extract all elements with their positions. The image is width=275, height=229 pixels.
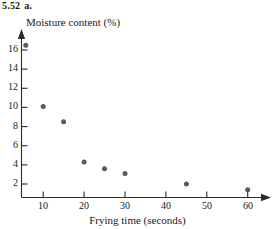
data-point-group <box>23 43 250 193</box>
x-tick-label: 50 <box>197 200 217 211</box>
y-tick-label: 6 <box>0 139 18 150</box>
x-tick-label: 30 <box>115 200 135 211</box>
data-point <box>23 43 28 48</box>
y-tick-label: 12 <box>0 81 18 92</box>
data-point <box>82 160 87 165</box>
x-axis-ticks <box>43 192 248 198</box>
y-tick-label: 14 <box>0 62 18 73</box>
data-point <box>61 119 66 124</box>
scatter-plot <box>0 0 275 229</box>
x-axis-arrowhead <box>261 194 271 201</box>
y-tick-label: 4 <box>0 158 18 169</box>
x-tick-label: 40 <box>156 200 176 211</box>
data-point <box>102 166 107 171</box>
data-point <box>123 171 128 176</box>
data-point <box>41 104 46 109</box>
data-point <box>245 187 250 192</box>
y-tick-label: 10 <box>0 100 18 111</box>
y-tick-label: 8 <box>0 120 18 131</box>
data-point <box>184 182 189 187</box>
y-tick-label: 16 <box>0 43 18 54</box>
figure-container: 5.52a. Moisture content (%) <box>0 0 275 229</box>
x-axis-title: Frying time (seconds) <box>0 214 275 226</box>
y-axis-arrowhead <box>18 29 25 39</box>
x-tick-label: 10 <box>33 200 53 211</box>
y-axis-ticks <box>22 50 28 184</box>
x-tick-label: 60 <box>238 200 258 211</box>
y-tick-label: 2 <box>0 177 18 188</box>
x-tick-label: 20 <box>74 200 94 211</box>
